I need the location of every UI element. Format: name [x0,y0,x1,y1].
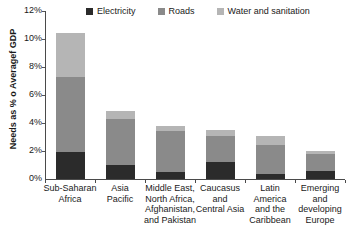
x-axis-category-label: EmerginganddevelopingEurope [289,183,351,225]
bar-segment-roads[interactable] [306,154,335,171]
bar-segment-electricity[interactable] [156,172,185,179]
y-axis-tick-label: 6% [0,90,42,99]
plot-area [45,11,345,179]
x-axis-category-line: Europe [289,215,351,226]
bar-segment-roads[interactable] [106,119,135,165]
bar-segment-electricity[interactable] [306,171,335,179]
bar-segment-electricity[interactable] [56,152,85,179]
y-axis-tick-label: 12% [0,6,42,15]
footer-strip [0,234,352,240]
bar-segment-electricity[interactable] [206,162,235,179]
bar-group[interactable] [306,151,335,179]
bar-segment-water-and-sanitation[interactable] [56,33,85,76]
bar-group[interactable] [56,33,85,179]
bar-group[interactable] [256,136,285,179]
bar-segment-water-and-sanitation[interactable] [256,136,285,145]
bar-segment-roads[interactable] [256,145,285,174]
x-axis-category-line: and Pakistan [139,215,201,226]
bar-segment-electricity[interactable] [256,174,285,179]
chart-figure: ElectricityRoadsWater and sanitation Nee… [0,0,352,240]
bar-segment-electricity[interactable] [106,165,135,179]
y-axis-tick-label: 0% [0,174,42,183]
bar-group[interactable] [106,111,135,179]
bar-group[interactable] [156,126,185,179]
y-axis-tick-label: 4% [0,118,42,127]
bar-segment-water-and-sanitation[interactable] [106,111,135,119]
y-axis-tick-label: 10% [0,34,42,43]
bar-segment-roads[interactable] [156,131,185,172]
y-axis-tick-label: 2% [0,146,42,155]
x-axis-category-line: and [289,194,351,205]
x-axis-category-line: developing [289,204,351,215]
bar-segment-roads[interactable] [56,77,85,153]
bar-segment-roads[interactable] [206,136,235,163]
y-axis-tick-label: 8% [0,62,42,71]
bar-group[interactable] [206,130,235,179]
x-axis-category-line: Emerging [289,183,351,194]
